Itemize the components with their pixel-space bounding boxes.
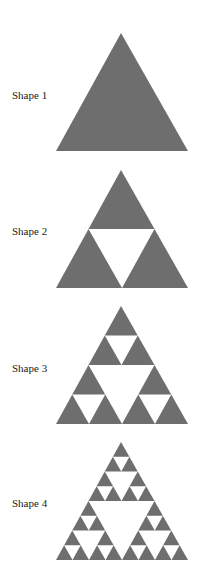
shape-2-triangle (56, 170, 188, 288)
shape-1-triangle (56, 33, 188, 151)
shape-4-triangle (56, 442, 188, 560)
shape-3-triangle (56, 306, 188, 424)
